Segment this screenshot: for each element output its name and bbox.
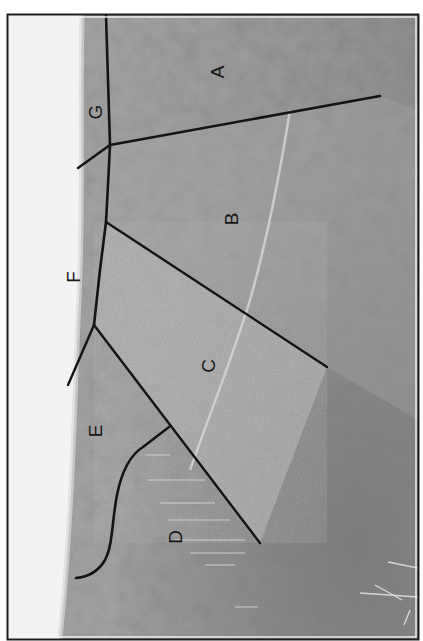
label-b: B — [221, 213, 242, 226]
label-a: A — [207, 65, 228, 78]
label-g: G — [85, 105, 106, 120]
label-c: C — [198, 359, 219, 373]
photograph — [8, 15, 418, 639]
photo-figure: A B C D E F G — [0, 0, 423, 641]
photo-canvas: A B C D E F G — [0, 0, 423, 641]
label-f: F — [63, 271, 84, 283]
label-d: D — [165, 530, 186, 544]
label-e: E — [85, 425, 106, 438]
